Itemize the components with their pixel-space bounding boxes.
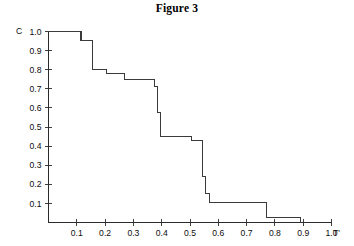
x-tick-label: 0.3 xyxy=(127,228,139,238)
y-tick-label: 0.3 xyxy=(30,160,42,170)
figure-container: Figure 3 0.10.20.30.40.50.60.70.80.91.0 … xyxy=(0,0,354,246)
axis-lines xyxy=(49,32,332,223)
step-chart-plot: 0.10.20.30.40.50.60.70.80.91.0 0.10.20.3… xyxy=(0,0,354,246)
y-tick-label: 0.9 xyxy=(30,46,42,56)
x-tick-label: 0.2 xyxy=(99,228,111,238)
x-tick-label: 0.5 xyxy=(184,228,196,238)
x-tick-label: 0.7 xyxy=(241,228,253,238)
y-axis-label: C xyxy=(16,26,22,36)
step-curve xyxy=(49,32,301,223)
y-tick-label: 0.6 xyxy=(30,103,42,113)
y-tick-label: 0.8 xyxy=(30,65,42,75)
y-tick-label: 0.7 xyxy=(30,84,42,94)
x-tick-label: 0.6 xyxy=(212,228,224,238)
y-tick-label: 0.4 xyxy=(30,141,42,151)
y-tick-label: 0.5 xyxy=(30,122,42,132)
y-tick-label: 0.1 xyxy=(30,199,42,209)
x-tick-label: 0.8 xyxy=(269,228,281,238)
x-tick-label: 0.9 xyxy=(297,228,309,238)
y-tick-label: 0.2 xyxy=(30,179,42,189)
x-tick-label: 0.4 xyxy=(156,228,168,238)
y-tick-label: 1.0 xyxy=(30,27,42,37)
x-axis-tick-labels: 0.10.20.30.40.50.60.70.80.91.0 xyxy=(71,228,338,238)
x-axis-label: T' xyxy=(333,228,340,238)
y-axis-tick-labels: 0.10.20.30.40.50.60.70.80.91.0 xyxy=(30,27,42,209)
x-tick-label: 0.1 xyxy=(71,228,83,238)
